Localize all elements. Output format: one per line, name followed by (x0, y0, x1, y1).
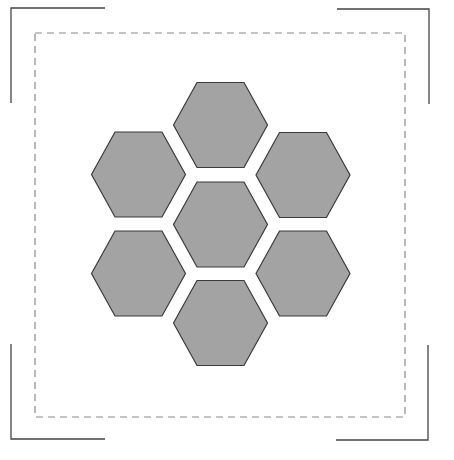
corner-mark-top-right (337, 9, 429, 104)
corner-mark-top-left (11, 8, 105, 103)
hexagon-lower-right (256, 231, 350, 316)
corner-mark-bottom-right (336, 345, 428, 440)
corner-mark-bottom-left (11, 344, 105, 439)
hexagon-top (174, 83, 268, 168)
hexagon-upper-left (92, 132, 186, 217)
hexagon-bottom (174, 281, 268, 366)
hexagon-center (174, 182, 268, 267)
hexagon-upper-right (256, 133, 350, 218)
hexagon-lower-left (92, 231, 186, 316)
hexagon-diagram (0, 0, 454, 460)
hexagon-cluster (92, 83, 351, 366)
